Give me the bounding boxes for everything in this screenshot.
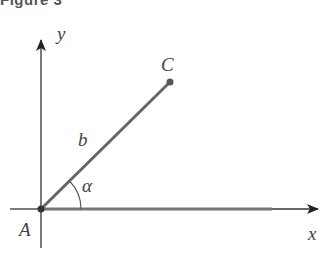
label-c: C (161, 54, 174, 75)
segment-b (41, 82, 170, 209)
point-c (167, 79, 174, 86)
label-a: A (17, 219, 31, 240)
label-x: x (307, 223, 317, 244)
point-a (38, 206, 45, 213)
label-y: y (55, 23, 66, 44)
label-alpha: α (82, 175, 93, 196)
angle-arc (70, 181, 82, 209)
diagram: y C b α A x (0, 0, 330, 254)
label-b: b (78, 129, 88, 150)
